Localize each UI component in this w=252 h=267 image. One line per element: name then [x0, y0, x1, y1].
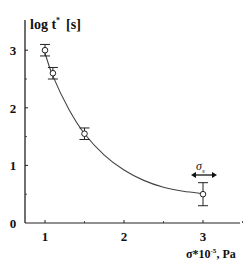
- x-axis-label: σ*10-5, Pa: [186, 247, 236, 261]
- x-tick-label: 2: [121, 229, 128, 244]
- sigma-s-annotation: σs: [191, 159, 217, 178]
- y-tick-label: 3: [10, 43, 17, 58]
- open-circle-marker: [50, 70, 56, 76]
- data-point: [40, 44, 50, 56]
- data-point: [48, 67, 58, 79]
- svg-text:σs: σs: [196, 159, 205, 175]
- y-tick-label: 0: [10, 216, 17, 231]
- y-tick-label: 1: [10, 158, 17, 173]
- open-circle-marker: [82, 131, 88, 137]
- x-tick-label: 1: [42, 229, 49, 244]
- data-point: [198, 183, 208, 206]
- y-axis-label: log t*[s]: [30, 16, 81, 32]
- open-circle-marker: [42, 47, 48, 53]
- x-tick-label: 3: [200, 229, 207, 244]
- open-circle-marker: [200, 191, 206, 197]
- plot-area: [40, 44, 208, 205]
- fit-curve: [45, 53, 203, 194]
- chart: 0123123 log t*[s] σ*10-5, Pa σs: [0, 0, 252, 267]
- y-tick-label: 2: [10, 101, 17, 116]
